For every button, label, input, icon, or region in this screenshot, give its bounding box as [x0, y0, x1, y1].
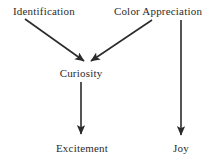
edge-identification-to-curiosity	[25, 19, 84, 61]
node-curiosity: Curiosity	[60, 67, 103, 79]
node-joy: Joy	[173, 142, 189, 154]
edge-color-appreciation-to-curiosity	[91, 20, 152, 61]
node-identification: Identification	[13, 5, 75, 17]
node-excitement: Excitement	[56, 142, 108, 154]
node-color-appreciation: Color Appreciation	[114, 5, 202, 17]
arrow-layer	[0, 0, 214, 160]
flow-diagram: Identification Color Appreciation Curios…	[0, 0, 214, 160]
